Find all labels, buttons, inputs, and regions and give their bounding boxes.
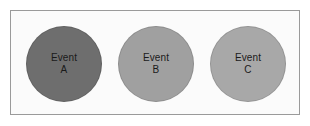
event-node-c-id: C — [244, 64, 251, 76]
event-node-a[interactable]: Event A — [26, 26, 102, 102]
event-frame-border: Event A Event B Event C — [10, 10, 300, 115]
event-node-b-id: B — [153, 64, 160, 76]
event-node-c-name: Event — [235, 52, 261, 64]
event-node-c[interactable]: Event C — [210, 26, 286, 102]
event-node-a-name: Event — [51, 52, 77, 64]
event-node-row: Event A Event B Event C — [11, 11, 301, 116]
event-node-a-id: A — [61, 64, 68, 76]
diagram-canvas: Event A Event B Event C — [0, 0, 310, 126]
event-node-b-name: Event — [143, 52, 169, 64]
event-node-b[interactable]: Event B — [118, 26, 194, 102]
